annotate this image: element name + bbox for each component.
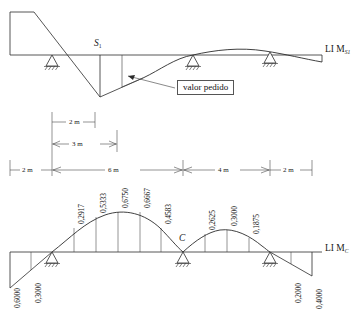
ordinate-label-0p1875: 0,1875 bbox=[252, 214, 261, 234]
ordinate-label-0p2625: 0,2625 bbox=[208, 210, 217, 230]
dimension-block bbox=[10, 112, 312, 176]
point-label-c: C bbox=[179, 233, 185, 243]
dim-label-3m-upper: 3 m bbox=[72, 140, 83, 148]
top-support-right bbox=[262, 52, 278, 67]
top-support-left bbox=[44, 55, 60, 70]
bottom-support-middle bbox=[175, 252, 191, 267]
top-diagram-title: LI MS1 bbox=[325, 44, 350, 55]
ordinate-label-0p2917: 0,2917 bbox=[77, 204, 86, 224]
ordinate-label-0p4000: 0,4000 bbox=[315, 289, 324, 309]
top-descending-line bbox=[34, 12, 100, 97]
dim-label-2m-right: 2 m bbox=[283, 166, 294, 174]
dim-label-2m-upper: 2 m bbox=[69, 118, 80, 126]
ordinate-label-0p3000: 0,3000 bbox=[230, 206, 239, 226]
top-diagram-li-ms1 bbox=[10, 12, 322, 97]
bottom-support-right bbox=[262, 252, 278, 267]
top-support-middle bbox=[185, 55, 201, 70]
ordinate-label-0p5333: 0,5333 bbox=[99, 193, 108, 213]
ordinate-label-0p6667: 0,6667 bbox=[143, 188, 152, 208]
dim-3m-upper bbox=[52, 141, 117, 147]
top-curve-right bbox=[143, 49, 322, 78]
dim-label-2m-left: 2 m bbox=[22, 166, 33, 174]
ordinate-label-0p6750: 0,6750 bbox=[121, 188, 130, 208]
dim-label-4m: 4 m bbox=[218, 166, 229, 174]
bottom-diagram-title: LI MC bbox=[325, 243, 349, 254]
point-label-s1: S1 bbox=[94, 38, 102, 49]
influence-line-figure bbox=[0, 0, 351, 311]
ordinate-label-0p2000: 0,2000 bbox=[294, 283, 303, 303]
valor-pedido-callout: valor pedido bbox=[177, 80, 234, 95]
ordinate-label-0p3000-left: 0,3000 bbox=[34, 283, 43, 303]
ordinate-label-0p4583: 0,4583 bbox=[164, 204, 173, 224]
figure-canvas: S1 LI MS1 valor pedido 2 m 3 m 2 m 6 m 4… bbox=[0, 0, 351, 311]
bottom-support-left bbox=[44, 252, 60, 267]
ordinate-label-0p6000: 0,6000 bbox=[13, 288, 22, 308]
dim-label-6m: 6 m bbox=[108, 166, 119, 174]
